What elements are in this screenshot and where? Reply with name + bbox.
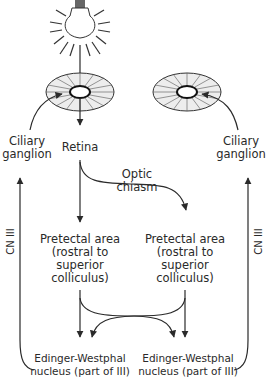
edinger-westphal-right-label: Edinger-Westphal nucleus (part of III): [138, 352, 238, 378]
right-eye-icon: [153, 73, 221, 111]
ciliary-ganglion-right-label: Ciliary ganglion: [216, 135, 266, 161]
pretectal-left-label: Pretectal area (rostral to superior coll…: [38, 233, 122, 285]
optic-chiasm-label: Optic chiasm: [112, 168, 162, 194]
retina-label: Retina: [60, 141, 100, 154]
cn-iii-right-label: CN III: [253, 224, 264, 260]
ciliary-ganglion-left-label: Ciliary ganglion: [2, 135, 52, 161]
pretectal-right-label: Pretectal area (rostral to superior coll…: [143, 233, 227, 285]
cn-iii-left-label: CN III: [5, 224, 16, 260]
edinger-westphal-left-label: Edinger-Westphal nucleus (part of III): [30, 352, 130, 378]
